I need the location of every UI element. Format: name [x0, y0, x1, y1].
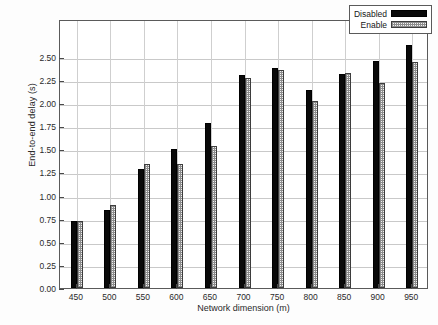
y-axis-tick-mark: [59, 127, 64, 128]
bar-enable-650: [211, 146, 217, 288]
y-axis-tick-label: 1.50: [12, 145, 56, 155]
y-axis-tick-label: 0.00: [12, 284, 56, 294]
chart-figure: End-to-end delay (s) Network dimension (…: [0, 0, 438, 325]
bar-enable-950: [412, 62, 418, 288]
x-axis-tick-mark: [244, 284, 245, 289]
y-axis-tick-mark: [59, 220, 64, 221]
x-axis-tick-mark: [109, 284, 110, 289]
y-axis-tick-label: 2.25: [12, 76, 56, 86]
y-axis-tick-mark: [59, 243, 64, 244]
x-axis-tick-mark: [76, 284, 77, 289]
chart-legend: Disabled Enable: [349, 5, 432, 34]
bar-enable-900: [379, 83, 385, 288]
y-axis-tick-mark: [59, 289, 64, 290]
y-axis-tick-mark: [59, 81, 64, 82]
bar-enable-600: [177, 164, 183, 288]
y-axis-tick-label: 0.25: [12, 261, 56, 271]
legend-label-disabled: Disabled: [354, 9, 387, 19]
x-axis-tick-mark: [344, 284, 345, 289]
x-axis-tick-mark: [277, 284, 278, 289]
y-axis-tick-mark: [59, 104, 64, 105]
y-axis-tick-mark: [59, 266, 64, 267]
x-axis-title: Network dimension (m): [59, 303, 428, 313]
x-axis-tick-mark: [411, 284, 412, 289]
y-axis-tick-label: 0.50: [12, 238, 56, 248]
x-axis-tick-label: 950: [391, 292, 431, 302]
y-axis-tick-label: 1.75: [12, 122, 56, 132]
bar-enable-550: [144, 164, 150, 288]
bar-enable-700: [245, 78, 251, 288]
y-axis-tick-mark: [59, 58, 64, 59]
plot-area: [59, 20, 428, 289]
legend-swatch-enable: [391, 21, 427, 28]
x-axis-tick-mark: [378, 284, 379, 289]
x-axis-tick-mark: [143, 284, 144, 289]
y-axis-tick-mark: [59, 173, 64, 174]
x-axis-tick-mark: [210, 284, 211, 289]
legend-item-enable: Enable: [354, 19, 427, 30]
y-axis-tick-label: 1.25: [12, 168, 56, 178]
y-axis-tick-label: 0.75: [12, 215, 56, 225]
y-axis-tick-mark: [59, 197, 64, 198]
bar-enable-750: [278, 70, 284, 288]
bar-enable-850: [345, 73, 351, 288]
y-axis-tick-mark: [59, 150, 64, 151]
legend-label-enable: Enable: [361, 20, 387, 30]
y-axis-tick-label: 1.00: [12, 192, 56, 202]
x-axis-tick-mark: [311, 284, 312, 289]
x-axis-tick-mark: [176, 284, 177, 289]
bar-enable-500: [110, 205, 116, 288]
bar-enable-800: [312, 101, 318, 288]
y-axis-tick-label: 2.00: [12, 99, 56, 109]
y-axis-tick-label: 2.50: [12, 53, 56, 63]
legend-swatch-disabled: [391, 10, 427, 17]
bar-enable-450: [77, 221, 83, 288]
legend-item-disabled: Disabled: [354, 8, 427, 19]
